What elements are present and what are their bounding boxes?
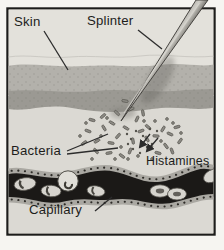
capillary-vessel [5, 166, 223, 207]
capillary-label: Capillary [29, 203, 82, 218]
white-blood-cell [58, 171, 78, 191]
splinter-label: Splinter [87, 14, 133, 29]
red-blood-cell [150, 185, 170, 197]
skin-cross-section [5, 8, 223, 235]
bacteria-label: Bacteria [11, 144, 61, 159]
skin-splinter-diagram: Skin Splinter Bacteria Histamines Capill… [0, 0, 224, 250]
skin-label: Skin [14, 15, 40, 30]
histamines-label: Histamines [146, 155, 209, 169]
red-blood-cell [168, 188, 187, 200]
